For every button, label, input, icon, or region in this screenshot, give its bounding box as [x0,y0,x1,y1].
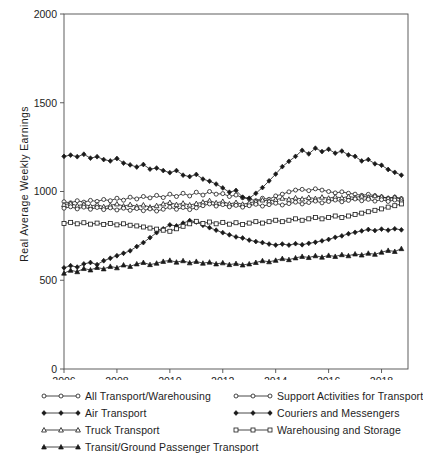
legend-marker-open-triangle [40,423,82,437]
plot-area: 0500100015002000200620082010201220142016… [0,0,423,380]
y-tick-label: 500 [39,274,57,286]
legend-label: All Transport/Warehousing [85,390,211,402]
legend-label: Warehousing and Storage [277,424,401,436]
series-line [64,221,401,268]
legend-item[interactable]: Air Transport [40,405,146,421]
x-tick-label: 2018 [370,375,394,381]
legend-marker-open-circle [40,389,82,403]
y-tick-label: 0 [51,363,57,375]
series-1 [62,146,404,201]
series-0 [62,187,403,205]
series-6 [62,202,403,233]
x-tick-label: 2010 [158,375,182,381]
chart-legend: All Transport/WarehousingAir TransportTr… [0,388,423,465]
legend-marker-filled-diamond [232,406,274,420]
legend-marker-filled-diamond [40,406,82,420]
legend-label: Transit/Ground Passenger Transport [85,441,258,453]
legend-item[interactable]: Couriers and Messengers [232,405,400,421]
legend-label: Air Transport [85,407,146,419]
legend-item[interactable]: All Transport/Warehousing [40,388,211,404]
legend-label: Couriers and Messengers [277,407,400,419]
chart-svg: 0500100015002000200620082010201220142016… [0,0,423,380]
legend-label: Truck Transport [85,424,160,436]
series-5 [62,218,404,270]
y-tick-label: 1500 [34,97,58,109]
legend-marker-open-square [232,423,274,437]
figure-container: Real Average Weekly Earnings 05001000150… [0,0,423,465]
x-tick-label: 2012 [211,375,235,381]
y-tick-label: 1000 [34,185,58,197]
legend-marker-filled-triangle [40,440,82,454]
legend-item[interactable]: Warehousing and Storage [232,422,401,438]
x-tick-label: 2016 [317,375,341,381]
y-tick-label: 2000 [34,8,58,20]
series-3 [62,246,404,275]
legend-item[interactable]: Support Activities for Transport [232,388,423,404]
legend-item[interactable]: Transit/Ground Passenger Transport [40,439,258,455]
legend-item[interactable]: Truck Transport [40,422,160,438]
legend-label: Support Activities for Transport [277,390,423,402]
x-tick-label: 2008 [105,375,129,381]
series-line [64,148,401,198]
x-tick-label: 2014 [264,375,288,381]
x-tick-label: 2006 [52,375,76,381]
legend-marker-open-circle [232,389,274,403]
